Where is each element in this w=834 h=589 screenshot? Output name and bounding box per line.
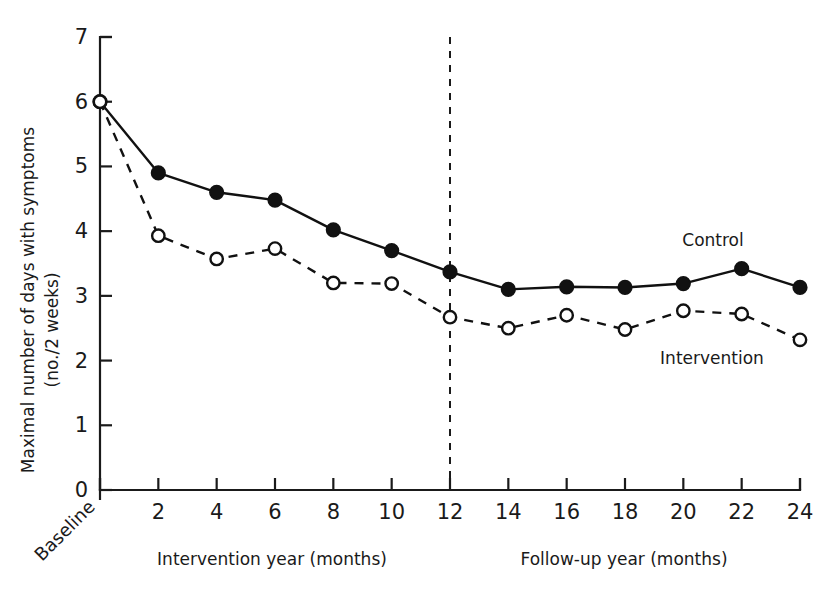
y-tick-label-1: 1 [75,413,88,437]
data-point-control-10 [385,244,399,258]
y-tick-label-6: 6 [75,90,88,114]
x-tick-label-6: 6 [268,500,281,524]
data-point-control-2 [152,166,166,180]
data-point-control-4 [210,186,224,200]
data-point-control-22 [735,262,749,276]
data-point-control-6 [268,193,282,207]
data-point-intervention-14 [502,322,514,334]
data-point-intervention-16 [560,309,572,321]
x-tick-label-2: 2 [152,500,165,524]
x-tick-label-4: 4 [210,500,223,524]
x-axis-title-followup-year: Follow-up year (months) [520,549,727,569]
data-point-control-18 [618,281,632,295]
data-point-intervention-4 [210,253,222,265]
data-point-control-12 [443,265,457,279]
series-label-intervention: Intervention [660,348,764,368]
data-point-intervention-6 [269,242,281,254]
data-point-control-8 [327,223,341,237]
y-tick-label-5: 5 [75,154,88,178]
x-tick-label-22: 22 [728,500,755,524]
data-point-intervention-24 [794,334,806,346]
y-axis-label-line1: Maximal number of days with symptoms [18,127,38,473]
x-tick-label-20: 20 [670,500,697,524]
x-tick-label-baseline: Baseline [30,496,99,565]
x-tick-label-group: 24681012141618202224 [152,500,814,524]
data-point-intervention-2 [152,229,164,241]
y-tick-label-3: 3 [75,284,88,308]
data-point-intervention-8 [327,277,339,289]
x-tick-label-24: 24 [787,500,814,524]
y-axis-label-line2: (no./2 weeks) [42,272,62,387]
data-point-intervention-12 [444,311,456,323]
x-tick-label-12: 12 [437,500,464,524]
y-tick-label-4: 4 [75,219,88,243]
y-tick-label-2: 2 [75,349,88,373]
x-axis-title-intervention-year: Intervention year (months) [157,549,387,569]
data-point-intervention-22 [735,308,747,320]
series-label-control: Control [682,230,743,250]
y-tick-label-7: 7 [75,25,88,49]
chart-figure: Maximal number of days with symptoms (no… [0,0,834,589]
data-point-intervention-10 [385,277,397,289]
line-chart-plot: Maximal number of days with symptoms (no… [0,0,834,589]
x-tick-label-8: 8 [327,500,340,524]
data-point-intervention-20 [677,305,689,317]
data-point-control-20 [677,277,691,291]
data-point-intervention-18 [619,323,631,335]
data-point-control-16 [560,280,574,294]
x-tick-label-14: 14 [495,500,522,524]
data-point-control-24 [793,281,807,295]
x-tick-label-16: 16 [553,500,580,524]
data-point-control-14 [502,283,516,297]
data-point-intervention-0 [94,96,106,108]
x-tick-label-10: 10 [378,500,405,524]
x-tick-label-18: 18 [612,500,639,524]
y-tick-label-group: 01234567 [75,25,88,502]
